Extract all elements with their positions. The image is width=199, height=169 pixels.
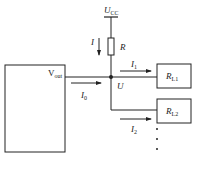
rl1-label: RL1 — [165, 71, 178, 82]
i2-label: I2 — [130, 124, 137, 135]
rl2-label: RL2 — [165, 106, 178, 117]
i0-label: I0 — [80, 90, 87, 101]
junction-node — [109, 75, 113, 79]
ucc-label: UCC — [104, 5, 119, 16]
circuit-diagram: Vout UCC R I U I0 I1 RL1 I2 RL2 — [0, 0, 199, 169]
i-label: I — [90, 37, 95, 47]
node-u-label: U — [117, 81, 124, 91]
r-label: R — [119, 42, 126, 52]
continuation-dots — [156, 128, 158, 150]
i1-label: I1 — [130, 59, 137, 70]
vout-label: Vout — [48, 68, 63, 79]
resistor-r — [108, 38, 114, 55]
